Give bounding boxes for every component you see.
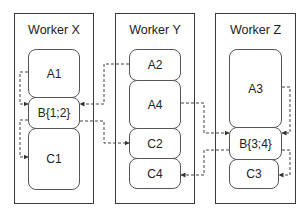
block-c2: C2 — [129, 128, 181, 159]
block-c4: C4 — [129, 158, 181, 189]
block-b34: B{3;4} — [229, 127, 282, 160]
block-b12: B{1;2} — [28, 97, 80, 129]
block-a3: A3 — [229, 49, 282, 128]
worker-z-title: Worker Z — [216, 23, 295, 37]
worker-x-title: Worker X — [15, 23, 93, 37]
block-a1: A1 — [28, 49, 80, 98]
block-a4: A4 — [129, 80, 181, 129]
block-a2: A2 — [129, 49, 181, 81]
block-c1: C1 — [28, 128, 80, 190]
block-c3: C3 — [229, 159, 279, 189]
worker-y-title: Worker Y — [116, 23, 194, 37]
